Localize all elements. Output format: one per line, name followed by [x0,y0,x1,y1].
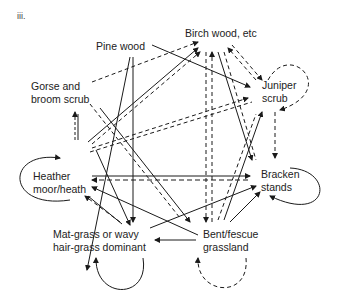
succession-diagram [0,0,338,305]
arrow-birch-juniper [232,45,262,80]
node-gorse-broom: Gorse andbroom scrub [31,80,89,105]
arrow-matgrass-to-bracken [150,186,256,228]
arrow-gorse-to-bent [100,108,190,222]
line-bent-juniper [218,114,256,220]
arrow-heather-to-birch [88,48,198,142]
line-heather-juniper [90,102,252,152]
loop-matgrass [96,258,144,290]
arrow-juniper-birch [228,48,256,80]
arrow-pine-to-juniper [152,45,250,87]
node-heather: Heathermoor/heath [33,170,86,195]
node-bracken: Brackenstands [261,168,300,193]
node-matgrass: Mat-grass or wavyhair-grass dominant [53,228,146,253]
line-heather-matgrass [88,196,122,224]
arrow-heather-to-matgrass [96,150,130,225]
node-bent-fescue: Bent/fescuegrassland [203,228,258,253]
node-juniper: Juniperscrub [262,79,296,104]
arrow-bent-to-bracken [230,192,260,222]
node-pine-wood: Pine wood [96,40,145,53]
line-gorse-bent [90,104,180,218]
loop-bent [198,258,246,288]
node-birch-wood: Birch wood, etc [185,27,257,40]
arrow-bent-to-juniper [224,112,262,220]
arrow-birch-to-bracken [218,52,252,160]
arrow-heather-to-juniper [92,98,248,148]
